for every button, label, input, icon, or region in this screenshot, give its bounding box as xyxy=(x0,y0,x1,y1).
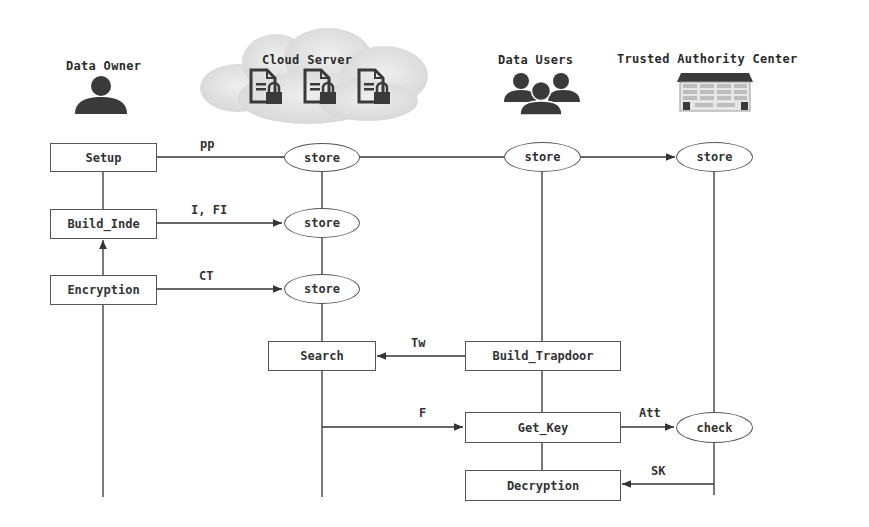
build-trapdoor-box: Build_Trapdoor xyxy=(465,341,621,371)
locked-document-icon xyxy=(249,68,285,105)
edge-label-pp: pp xyxy=(200,137,214,151)
person-icon xyxy=(73,76,129,114)
edge-label-sk: SK xyxy=(651,464,665,478)
actor-data-users-label: Data Users xyxy=(498,53,573,67)
store-cloud-2-ellipse: store xyxy=(284,208,360,238)
actor-cloud-server-label: Cloud Server xyxy=(262,53,352,67)
search-box: Search xyxy=(268,341,376,371)
build-index-box: Build_Inde xyxy=(50,209,157,239)
building-icon xyxy=(675,71,755,113)
encryption-box: Encryption xyxy=(50,275,157,305)
edge-label-f: F xyxy=(419,406,426,420)
decryption-box: Decryption xyxy=(465,470,621,501)
actor-trusted-authority-label: Trusted Authority Center xyxy=(617,52,798,66)
get-key-box: Get_Key xyxy=(465,412,621,443)
store-cloud-1-ellipse: store xyxy=(284,143,360,172)
edge-label-i-fi: I, FI xyxy=(191,203,227,217)
store-cloud-3-ellipse: store xyxy=(284,274,360,304)
edge-label-ct: CT xyxy=(199,269,213,283)
edge-label-att: Att xyxy=(639,406,661,420)
store-users-ellipse: store xyxy=(504,142,581,172)
locked-document-icon xyxy=(303,68,339,105)
actor-data-owner-label: Data Owner xyxy=(66,59,141,73)
check-ellipse: check xyxy=(676,412,753,443)
setup-box: Setup xyxy=(50,143,157,172)
locked-document-icon xyxy=(357,68,393,105)
edge-label-tw: Tw xyxy=(411,336,425,350)
group-icon xyxy=(503,71,581,115)
store-tac-ellipse: store xyxy=(676,142,753,172)
